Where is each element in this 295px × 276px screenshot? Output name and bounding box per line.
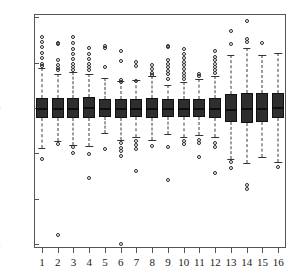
x-tick-label: 5 xyxy=(102,256,108,268)
outlier-point xyxy=(103,147,107,151)
outlier-point xyxy=(119,49,123,53)
outlier-point xyxy=(40,56,44,60)
cap-lower xyxy=(180,137,187,138)
median-line xyxy=(256,108,268,110)
x-tick-mark xyxy=(89,248,90,253)
whisker-upper xyxy=(73,72,74,97)
whisker-lower xyxy=(136,117,137,137)
outlier-point xyxy=(229,29,233,33)
x-tick-label: 6 xyxy=(118,256,124,268)
cap-upper xyxy=(70,72,77,73)
outlier-point xyxy=(119,154,123,158)
outlier-point xyxy=(40,40,44,44)
whisker-upper xyxy=(215,76,216,98)
whisker-upper xyxy=(41,68,42,98)
x-tick-label: 12 xyxy=(210,256,221,268)
cap-lower xyxy=(133,137,140,138)
outlier-point xyxy=(40,35,44,39)
outlier-point xyxy=(56,58,60,62)
x-tick-label: 13 xyxy=(225,256,236,268)
outlier-point xyxy=(119,242,123,246)
outlier-point xyxy=(87,152,91,156)
outlier-point xyxy=(87,46,91,50)
median-line xyxy=(241,108,253,110)
cap-lower xyxy=(38,148,45,149)
whisker-lower xyxy=(262,122,263,156)
outlier-point xyxy=(87,52,91,56)
x-tick-label: 11 xyxy=(194,256,205,268)
x-tick-mark xyxy=(105,248,106,253)
x-tick-mark xyxy=(199,248,200,253)
whisker-upper xyxy=(246,48,247,93)
whisker-lower xyxy=(57,118,58,141)
outlier-point xyxy=(150,73,154,77)
outlier-point xyxy=(213,145,217,149)
outlier-point xyxy=(119,149,123,153)
median-line xyxy=(225,109,237,111)
median-line xyxy=(146,108,158,110)
whisker-upper xyxy=(89,74,90,97)
whisker-upper xyxy=(57,74,58,99)
x-tick-mark xyxy=(58,248,59,253)
x-tick-mark xyxy=(215,248,216,253)
outlier-point xyxy=(182,142,186,146)
outlier-point xyxy=(166,178,170,182)
x-tick-label: 8 xyxy=(149,256,155,268)
cap-upper xyxy=(196,79,203,80)
outlier-point xyxy=(134,79,138,83)
cap-lower xyxy=(164,134,171,135)
outlier-point xyxy=(87,68,91,72)
whisker-lower xyxy=(230,122,231,159)
outlier-point xyxy=(276,165,280,169)
median-line xyxy=(67,108,79,110)
median-line xyxy=(130,108,142,110)
whisker-lower xyxy=(104,117,105,133)
cap-lower xyxy=(243,163,250,164)
outlier-point xyxy=(260,41,264,45)
outlier-point xyxy=(197,141,201,145)
x-tick-label: 14 xyxy=(241,256,252,268)
median-line xyxy=(115,108,127,110)
outlier-point xyxy=(134,64,138,68)
x-tick-mark xyxy=(184,248,185,253)
outlier-point xyxy=(213,71,217,75)
outlier-point xyxy=(71,41,75,45)
x-tick-mark xyxy=(152,248,153,253)
whisker-upper xyxy=(262,55,263,94)
outlier-point xyxy=(197,155,201,159)
median-line xyxy=(83,107,95,109)
cap-lower xyxy=(101,133,108,134)
x-tick-label: 4 xyxy=(86,256,92,268)
outlier-point xyxy=(71,145,75,149)
x-tick-label: 2 xyxy=(55,256,61,268)
outlier-point xyxy=(166,145,170,149)
cap-upper xyxy=(211,76,218,77)
median-line xyxy=(272,107,284,109)
outlier-point xyxy=(134,139,138,143)
outlier-point xyxy=(40,51,44,55)
x-tick-label: 7 xyxy=(134,256,140,268)
outlier-point xyxy=(87,57,91,61)
outlier-point xyxy=(119,141,123,145)
x-tick-mark xyxy=(121,248,122,253)
box-iqr xyxy=(225,94,237,122)
whisker-lower xyxy=(73,118,74,145)
outlier-point xyxy=(213,49,217,53)
x-tick-label: 16 xyxy=(273,256,284,268)
whisker-lower xyxy=(152,118,153,141)
y-tick-mark xyxy=(34,199,39,200)
outlier-point xyxy=(166,77,170,81)
x-tick-mark xyxy=(231,248,232,253)
outlier-point xyxy=(71,47,75,51)
outlier-point xyxy=(71,35,75,39)
outlier-point xyxy=(245,19,249,23)
y-tick-mark xyxy=(34,153,39,154)
outlier-point xyxy=(103,46,107,50)
median-line xyxy=(52,108,64,110)
cap-lower xyxy=(259,157,266,158)
boxplot-figure: 210-1-2-3 12345678910111213141516 xyxy=(0,0,295,276)
outlier-point xyxy=(229,160,233,164)
whisker-upper xyxy=(104,78,105,99)
whisker-upper xyxy=(167,85,168,99)
cap-upper xyxy=(38,68,45,69)
